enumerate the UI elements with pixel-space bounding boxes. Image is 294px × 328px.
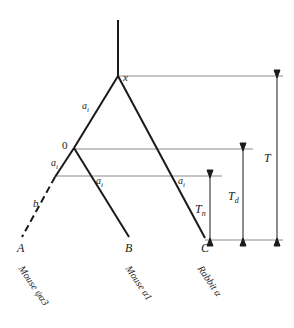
arrowhead-total-bottom: [274, 238, 280, 246]
time-label-nonfunctional: Tn: [195, 203, 206, 218]
branch-label-node0-right: ai: [96, 176, 103, 189]
branch-root-to-node0: [74, 76, 118, 148]
time-label-duplication: Td: [228, 190, 239, 205]
phylogenetic-tree-figure: x 0 ai ai ai ai b A B C Mouse ψα3 Mouse …: [0, 0, 294, 328]
branch-node0-to-b: [74, 148, 129, 237]
branch-label-pseudogene: b: [33, 198, 39, 209]
branch-root-to-c: [118, 76, 205, 238]
tip-label-c: C: [201, 242, 209, 254]
arrowhead-nonfunctional-top: [207, 170, 213, 178]
branch-label-root-right: ai: [178, 176, 185, 189]
branch-label-node0-left: ai: [51, 158, 58, 171]
tip-label-b: B: [125, 242, 132, 254]
tip-label-a: A: [17, 242, 24, 254]
node-label-root: x: [123, 72, 128, 83]
arrowhead-total-top: [274, 70, 280, 78]
arrowhead-duplication-top: [240, 143, 246, 151]
tree-drawing: [0, 0, 294, 328]
arrowhead-duplication-bottom: [240, 238, 246, 246]
time-label-total: T: [264, 152, 271, 167]
branch-label-root-left: ai: [82, 101, 89, 114]
node-label-internal: 0: [62, 140, 68, 151]
